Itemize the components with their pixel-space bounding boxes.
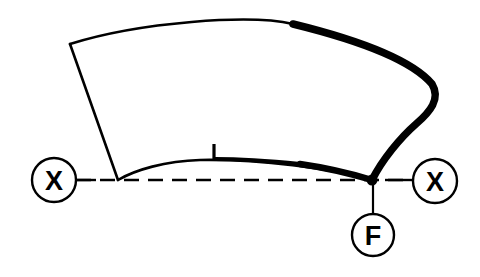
marker-x-left[interactable]: X	[32, 158, 76, 202]
x-marker-left-label: X	[45, 166, 63, 196]
pad-bottom-taper-edge	[215, 159, 300, 164]
pad-bottom-right-thick-edge	[300, 164, 372, 180]
pad-left-edge	[70, 44, 118, 180]
pad-outline-group	[70, 20, 435, 180]
marker-f[interactable]: F	[352, 214, 394, 256]
pad-thick-edges-group	[215, 24, 435, 180]
marker-x-right[interactable]: X	[413, 159, 457, 203]
brake-pad-diagram: X X F	[0, 0, 480, 277]
diagram-canvas: X X F	[0, 0, 480, 277]
x-marker-right-label: X	[426, 167, 444, 197]
f-marker-label: F	[365, 221, 382, 251]
pad-top-right-thick-edge	[293, 24, 435, 180]
